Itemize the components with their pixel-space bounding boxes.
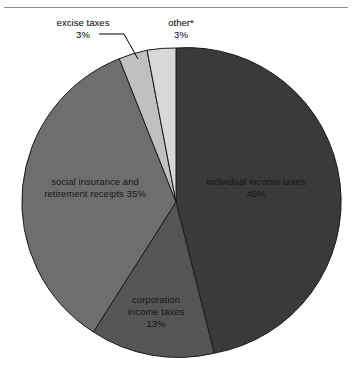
pie-chart-graphic [0, 0, 352, 390]
pie-chart-figure: excise taxes 3% other* 3% individual inc… [0, 0, 352, 390]
